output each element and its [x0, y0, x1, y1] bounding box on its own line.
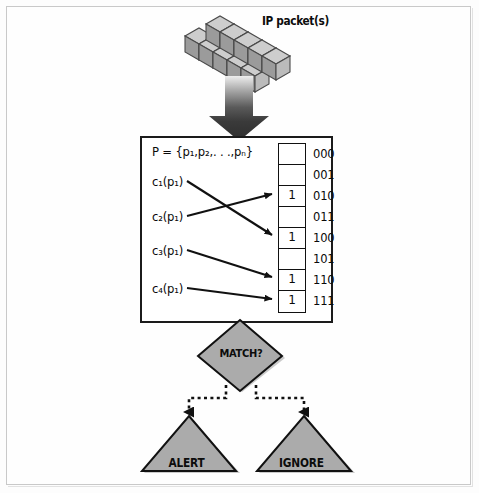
bit-cell: 101	[279, 249, 305, 270]
bit-cell: 001	[279, 165, 305, 186]
bit-vector: 000 001 1 010 011 1 100 101 1 110 1 111	[278, 143, 306, 313]
bit-index-label: 001	[313, 167, 334, 182]
bit-cell: 1 010	[279, 186, 305, 207]
bit-value: 1	[279, 188, 305, 202]
bit-index-label: 100	[313, 230, 334, 245]
bit-cell: 1 110	[279, 270, 305, 291]
hash-function-label-1: c₁(p₁)	[152, 174, 183, 189]
hash-function-label-2: c₂(p₁)	[152, 209, 183, 224]
hash-function-label-3: c₃(p₁)	[152, 243, 183, 258]
alert-outcome-label: ALERT	[139, 456, 234, 470]
hash-function-label-4: c₄(p₁)	[152, 281, 183, 296]
match-decision-node: MATCH?	[196, 318, 286, 394]
bit-value: 1	[279, 230, 305, 244]
ignore-outcome-node: IGNORE	[250, 414, 358, 476]
bit-value: 1	[279, 272, 305, 286]
bit-index-label: 101	[313, 251, 334, 266]
bit-value: 1	[279, 293, 305, 307]
packet-set-formula: P = {p₁,p₂,. . .,pₙ}	[152, 144, 253, 159]
bit-index-label: 110	[313, 272, 334, 287]
bit-cell: 1 111	[279, 291, 305, 312]
diagram-canvas: IP packet(s) P = {p₁,p₂,. . .,pₙ} c₁(p₁)…	[0, 0, 479, 493]
bit-index-label: 011	[313, 209, 334, 224]
bit-cell: 011	[279, 207, 305, 228]
match-decision-label: MATCH?	[201, 347, 282, 360]
alert-outcome-node: ALERT	[135, 414, 243, 476]
bit-index-label: 111	[313, 293, 334, 308]
bit-cell: 1 100	[279, 228, 305, 249]
ip-packets-label: IP packet(s)	[262, 14, 329, 28]
bit-index-label: 010	[313, 188, 334, 203]
bit-cell: 000	[279, 144, 305, 165]
flow-down-arrow-icon	[208, 76, 270, 142]
bit-index-label: 000	[313, 146, 334, 161]
ignore-outcome-label: IGNORE	[254, 456, 349, 470]
